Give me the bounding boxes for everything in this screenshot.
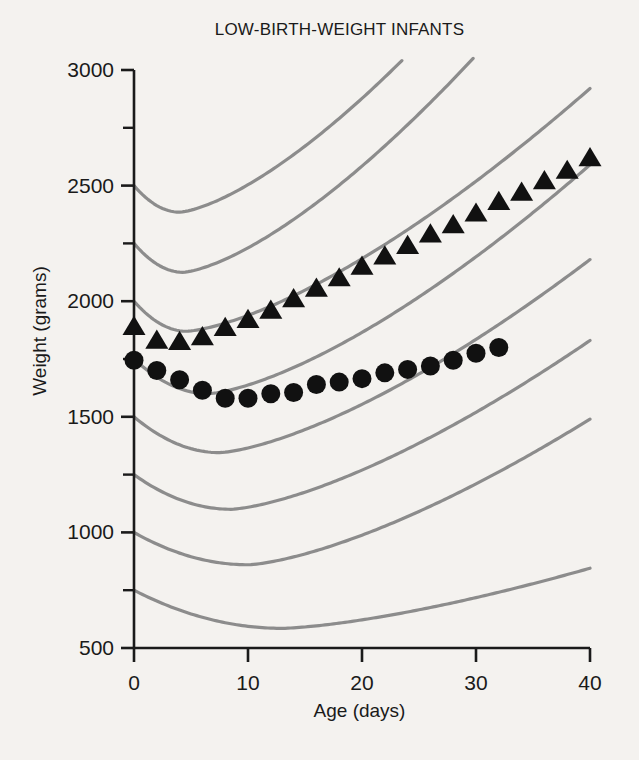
data-point-circle	[330, 373, 349, 392]
data-point-circle	[261, 384, 280, 403]
y-tick-label: 3000	[67, 58, 114, 81]
data-point-triangle	[145, 330, 168, 349]
data-point-triangle	[510, 182, 533, 201]
y-tick-label: 1500	[67, 405, 114, 428]
data-point-triangle	[123, 316, 146, 335]
x-tick-label: 10	[236, 671, 259, 694]
data-point-circle	[307, 375, 326, 394]
y-tick-label: 500	[79, 636, 114, 659]
data-point-circle	[147, 361, 166, 380]
percentile-curve-1000	[134, 419, 590, 565]
axes-layer	[121, 70, 590, 662]
data-point-circle	[353, 369, 372, 388]
x-tick-label: 40	[578, 671, 601, 694]
data-point-triangle	[168, 331, 191, 350]
data-point-triangle	[579, 147, 602, 166]
data-point-triangle	[487, 191, 510, 210]
data-point-circle	[421, 356, 440, 375]
percentile-curve-2500	[134, 61, 402, 213]
data-point-circle	[444, 351, 463, 370]
data-point-triangle	[396, 235, 419, 254]
percentile-curve-750	[134, 568, 590, 628]
data-point-circle	[375, 363, 394, 382]
data-point-triangle	[419, 223, 442, 242]
data-point-circle	[216, 389, 235, 408]
data-point-circle	[170, 370, 189, 389]
percentile-curve-2000	[134, 89, 590, 332]
data-point-circle	[239, 389, 258, 408]
data-point-circle	[125, 351, 144, 370]
chart-plot-area: 50010001500200025003000010203040	[0, 0, 639, 760]
data-point-triangle	[533, 170, 556, 189]
data-point-circle	[284, 383, 303, 402]
y-axis-title: Weight (grams)	[29, 221, 51, 441]
data-point-triangle	[442, 214, 465, 233]
data-point-circle	[467, 344, 486, 363]
x-tick-label: 0	[128, 671, 140, 694]
chart-page: LOW-BIRTH-WEIGHT INFANTS 500100015002000…	[0, 0, 639, 760]
data-point-circle	[398, 360, 417, 379]
y-tick-label: 2000	[67, 289, 114, 312]
y-tick-label: 2500	[67, 174, 114, 197]
data-point-triangle	[556, 160, 579, 179]
percentile-curve-1500	[134, 260, 590, 453]
percentile-curve-1250	[134, 341, 590, 510]
data-markers-layer	[123, 147, 602, 408]
data-point-circle	[489, 338, 508, 357]
y-tick-label: 1000	[67, 520, 114, 543]
x-tick-label: 20	[350, 671, 373, 694]
data-point-circle	[193, 381, 212, 400]
x-tick-label: 30	[464, 671, 487, 694]
x-axis-title: Age (days)	[0, 700, 639, 722]
data-point-triangle	[465, 202, 488, 221]
